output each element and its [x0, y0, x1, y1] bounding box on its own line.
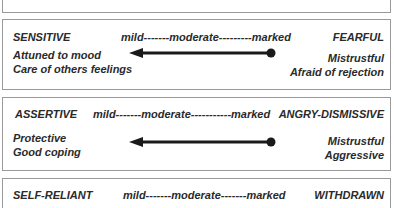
right-trait: Mistrustful	[328, 52, 384, 65]
left-trait: Attuned to mood	[13, 49, 101, 62]
arrow-left-icon	[129, 136, 279, 148]
severity-scale: mild-------moderate-----------marked	[93, 108, 270, 121]
left-label: ASSERTIVE	[15, 108, 77, 121]
row-sensitive-fearful: SENSITIVE mild-------moderate---------ma…	[2, 19, 391, 90]
previous-row-box	[2, 0, 391, 13]
right-trait: Mistrustful	[328, 135, 384, 148]
left-trait: Care of others feelings	[13, 63, 132, 76]
right-trait: Afraid of rejection	[290, 66, 384, 79]
right-label: FEARFUL	[333, 31, 384, 44]
left-label: SENSITIVE	[13, 31, 70, 44]
right-trait: Aggressive	[325, 149, 384, 162]
row-assertive-angry: ASSERTIVE mild-------moderate-----------…	[2, 97, 391, 171]
right-label: WITHDRAWN	[314, 189, 384, 202]
left-trait: Good coping	[13, 146, 81, 159]
arrow-left-icon	[129, 47, 279, 59]
right-label: ANGRY-DISMISSIVE	[279, 108, 384, 121]
row-selfreliant-withdrawn: SELF-RELIANT mild-------moderate-------m…	[2, 178, 391, 208]
severity-scale: mild-------moderate---------marked	[121, 31, 291, 44]
left-label: SELF-RELIANT	[13, 189, 92, 202]
severity-scale: mild-------moderate-------marked	[123, 189, 286, 202]
left-trait: Protective	[13, 132, 66, 145]
